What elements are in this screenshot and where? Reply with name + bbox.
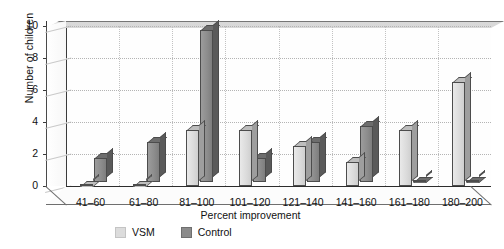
bar-control-7[interactable]	[466, 182, 479, 183]
y-tick-label: 6	[14, 83, 38, 95]
vertical-gridline	[385, 26, 386, 186]
bar-vsm-6[interactable]	[399, 130, 412, 186]
legend-label-vsm: VSM	[132, 226, 155, 238]
legend-item-control[interactable]: Control	[181, 226, 232, 238]
bar-front-face	[239, 130, 252, 186]
bar-vsm-1[interactable]	[133, 186, 146, 187]
bar-front-face	[399, 130, 412, 186]
bar-side-face	[213, 20, 219, 177]
x-tick-label: 161–180	[379, 196, 439, 208]
vertical-gridline	[438, 26, 439, 186]
bar-front-face	[413, 180, 426, 182]
legend-item-vsm[interactable]: VSM	[115, 226, 155, 238]
y-tick-label: 2	[14, 147, 38, 159]
bar-vsm-7[interactable]	[452, 82, 465, 186]
x-tick-label: 141–160	[326, 196, 386, 208]
vertical-gridline	[332, 26, 333, 186]
vertical-gridline	[119, 26, 120, 186]
bar-side-face	[320, 132, 326, 177]
bar-side-face	[373, 116, 379, 177]
plot-area	[66, 26, 491, 186]
bar-side-face	[465, 72, 471, 181]
bar-front-face	[452, 82, 465, 186]
control-swatch-icon	[181, 227, 192, 238]
bar-vsm-0[interactable]	[80, 186, 93, 187]
y-tick-label: 10	[14, 19, 38, 31]
bar-control-6[interactable]	[413, 182, 426, 183]
y-tick-label: 0	[14, 179, 38, 191]
bar-side-face	[199, 120, 205, 181]
bar-front-face	[186, 130, 199, 186]
bar-front-face	[293, 146, 306, 186]
legend-label-control: Control	[198, 226, 232, 238]
vertical-gridline	[225, 26, 226, 186]
bar-front-face	[80, 184, 93, 186]
bar-side-face	[252, 120, 258, 181]
bar-front-face	[346, 162, 359, 186]
bar-side-face	[107, 148, 113, 177]
bar-vsm-5[interactable]	[346, 162, 359, 186]
vertical-gridline	[172, 26, 173, 186]
bar-side-face	[412, 120, 418, 181]
x-tick-label: 121–140	[273, 196, 333, 208]
chart-baseline	[66, 186, 491, 187]
bar-vsm-4[interactable]	[293, 146, 306, 186]
vsm-swatch-icon	[115, 227, 126, 238]
x-tick-label: 61–80	[114, 196, 174, 208]
x-axis-title: Percent improvement	[0, 209, 501, 221]
bar-front-face	[133, 184, 146, 186]
x-tick-label: 180–200	[432, 196, 492, 208]
bar-side-face	[359, 152, 365, 181]
bar-vsm-2[interactable]	[186, 130, 199, 186]
bar-vsm-3[interactable]	[239, 130, 252, 186]
y-tick-label: 4	[14, 115, 38, 127]
bar-side-face	[306, 136, 312, 181]
chart-left-wall	[46, 21, 66, 186]
x-tick-label: 41–60	[61, 196, 121, 208]
x-tick-label: 101–120	[220, 196, 280, 208]
chart-legend: VSM Control	[115, 226, 232, 238]
vertical-gridline	[279, 26, 280, 186]
y-tick-label: 8	[14, 51, 38, 63]
bar-front-face	[466, 180, 479, 182]
x-tick-label: 81–100	[167, 196, 227, 208]
bar-side-face	[160, 132, 166, 177]
